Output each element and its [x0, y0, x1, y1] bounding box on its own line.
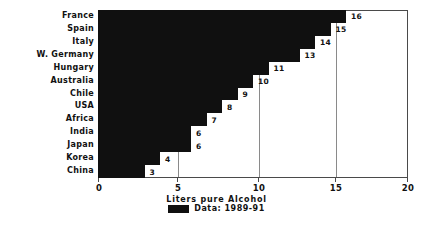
- bar-row: 16: [98, 10, 408, 23]
- bar-value-india: 6: [196, 128, 201, 137]
- bars-layer: 16 15 14 13 11 10 9 8: [98, 10, 408, 178]
- bar-row: 10: [98, 75, 408, 88]
- category-label-hungary: Hungary: [54, 62, 94, 75]
- category-label-usa: USA: [75, 100, 94, 113]
- category-label-w-germany: W. Germany: [36, 49, 94, 62]
- bar-usa: [98, 100, 222, 113]
- bar-france: [98, 10, 346, 23]
- bar-row: 14: [98, 36, 408, 49]
- category-label-italy: Italy: [72, 36, 94, 49]
- tick-label-5: 5: [175, 183, 181, 193]
- category-label-africa: Africa: [66, 113, 94, 126]
- bar-value-japan: 6: [196, 141, 201, 150]
- bar-hungary: [98, 62, 269, 75]
- bar-row: 8: [98, 100, 408, 113]
- bar-value-spain: 15: [336, 25, 347, 34]
- bar-korea: [98, 152, 160, 165]
- category-label-japan: Japan: [67, 139, 94, 152]
- bar-row: 9: [98, 88, 408, 101]
- category-label-chile: Chile: [70, 88, 94, 101]
- tick-mark-20: [407, 178, 408, 182]
- category-label-spain: Spain: [67, 23, 94, 36]
- tick-label-15: 15: [330, 183, 342, 193]
- tick-mark-0: [98, 178, 99, 182]
- bar-africa: [98, 113, 207, 126]
- legend-label: Data: 1989-91: [194, 204, 264, 213]
- bar-value-chile: 9: [243, 89, 248, 98]
- bar-row: 7: [98, 113, 408, 126]
- bar-value-korea: 4: [165, 154, 170, 163]
- category-axis-labels: France Spain Italy W. Germany Hungary Au…: [0, 10, 94, 178]
- bar-italy: [98, 36, 315, 49]
- bar-row: 6: [98, 126, 408, 139]
- bar-value-hungary: 11: [274, 64, 285, 73]
- bar-w-germany: [98, 49, 300, 62]
- bar-japan: [98, 139, 191, 152]
- bar-china: [98, 165, 145, 178]
- bar-row: 15: [98, 23, 408, 36]
- tick-label-10: 10: [253, 183, 265, 193]
- bar-value-china: 3: [150, 167, 155, 176]
- bar-value-w-germany: 13: [305, 51, 316, 60]
- x-axis-title: Liters pure Alcohol: [0, 195, 433, 204]
- bar-row: 13: [98, 49, 408, 62]
- tick-label-20: 20: [402, 183, 414, 193]
- bar-row: 6: [98, 139, 408, 152]
- bar-row: 4: [98, 152, 408, 165]
- bar-australia: [98, 75, 253, 88]
- tick-label-0: 0: [96, 183, 102, 193]
- bar-row: 11: [98, 62, 408, 75]
- legend-swatch-icon: [168, 205, 189, 213]
- alcohol-consumption-bar-chart: France Spain Italy W. Germany Hungary Au…: [0, 0, 433, 229]
- category-label-india: India: [70, 126, 94, 139]
- chart-legend: Data: 1989-91: [0, 204, 433, 213]
- bar-row: 3: [98, 165, 408, 178]
- bar-india: [98, 126, 191, 139]
- bar-value-france: 16: [351, 12, 362, 21]
- tick-mark-15: [335, 178, 336, 182]
- tick-mark-10: [258, 178, 259, 182]
- bar-chile: [98, 88, 238, 101]
- bar-spain: [98, 23, 331, 36]
- bar-value-italy: 14: [320, 38, 331, 47]
- bar-value-australia: 10: [258, 77, 269, 86]
- tick-mark-5: [177, 178, 178, 182]
- bar-value-africa: 7: [212, 115, 217, 124]
- category-label-korea: Korea: [66, 152, 94, 165]
- bar-value-usa: 8: [227, 102, 232, 111]
- category-label-china: China: [67, 165, 94, 178]
- category-label-australia: Australia: [51, 75, 94, 88]
- category-label-france: France: [62, 10, 94, 23]
